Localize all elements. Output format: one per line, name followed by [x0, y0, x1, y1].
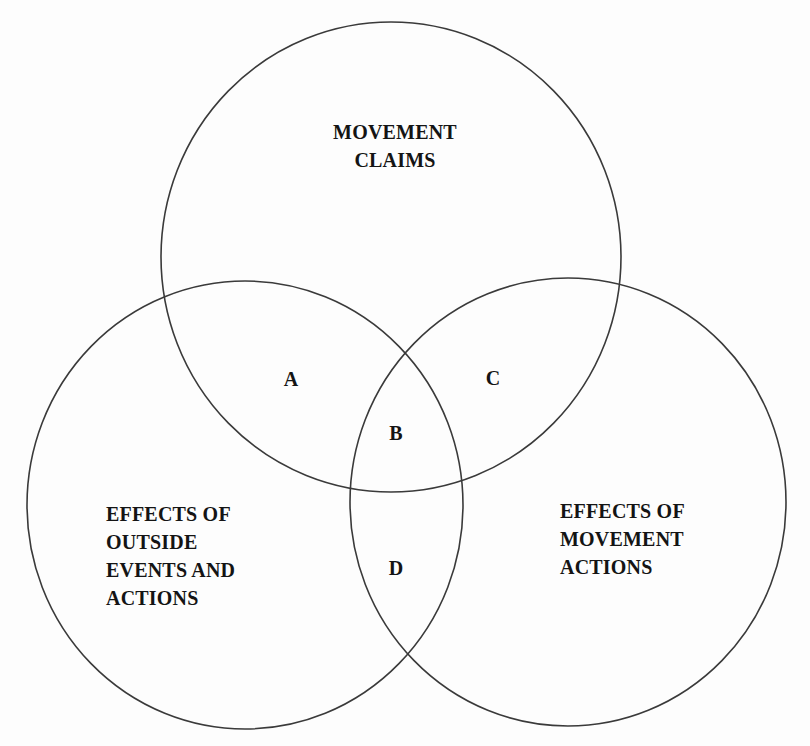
label-line: MOVEMENT	[315, 118, 475, 146]
region-d-label: D	[389, 557, 403, 580]
region-c-label: C	[486, 367, 500, 390]
label-line: EFFECTS OF	[560, 497, 685, 525]
label-line: ACTIONS	[560, 553, 685, 581]
label-line: EVENTS AND	[106, 556, 235, 584]
circle-effects-outside-events	[27, 281, 463, 729]
region-b-label: B	[389, 422, 402, 445]
label-line: EFFECTS OF	[106, 500, 235, 528]
label-line: ACTIONS	[106, 584, 235, 612]
venn-diagram: MOVEMENT CLAIMS EFFECTS OF OUTSIDE EVENT…	[0, 0, 810, 746]
label-effects-movement-actions: EFFECTS OF MOVEMENT ACTIONS	[560, 497, 685, 581]
region-a-label: A	[284, 368, 298, 391]
label-effects-outside-events: EFFECTS OF OUTSIDE EVENTS AND ACTIONS	[106, 500, 235, 612]
label-movement-claims: MOVEMENT CLAIMS	[315, 118, 475, 174]
label-line: CLAIMS	[315, 146, 475, 174]
venn-circles	[0, 0, 810, 746]
label-line: OUTSIDE	[106, 528, 235, 556]
label-line: MOVEMENT	[560, 525, 685, 553]
